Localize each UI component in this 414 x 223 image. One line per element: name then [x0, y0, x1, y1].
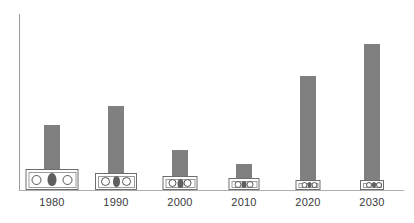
bar — [364, 44, 380, 190]
money-icon — [95, 173, 137, 190]
x-axis-label: 2000 — [148, 196, 212, 208]
money-icon — [229, 178, 260, 190]
x-axis-label: 1980 — [20, 196, 84, 208]
seal-left-icon — [235, 181, 242, 188]
bar-group — [340, 14, 404, 190]
seal-right-icon — [122, 177, 131, 186]
bar-chart: 198019902000201020202030 — [0, 0, 414, 223]
seal-right-icon — [62, 175, 72, 185]
x-axis-label: 2020 — [276, 196, 340, 208]
portrait-icon — [177, 179, 183, 188]
x-axis-label: 2030 — [340, 196, 404, 208]
seal-left-icon — [169, 179, 177, 187]
bar-group — [84, 14, 148, 190]
bar-group — [148, 14, 212, 190]
seal-right-icon — [183, 179, 191, 187]
money-icon — [296, 180, 321, 190]
money-icon — [163, 176, 198, 190]
x-axis-label: 1990 — [84, 196, 148, 208]
seal-left-icon — [32, 175, 42, 185]
x-axis-label: 2010 — [212, 196, 276, 208]
seal-left-icon — [101, 177, 110, 186]
bar-group — [212, 14, 276, 190]
plot-area — [20, 14, 404, 190]
seal-right-icon — [247, 181, 254, 188]
money-icon — [26, 169, 79, 190]
money-icon — [360, 180, 384, 190]
x-axis-line — [19, 190, 404, 191]
portrait-icon — [113, 176, 120, 187]
seal-right-icon — [312, 182, 318, 188]
bar-group — [20, 14, 84, 190]
portrait-icon — [48, 173, 57, 186]
x-axis-tick-labels: 198019902000201020202030 — [20, 196, 404, 216]
bar-group — [276, 14, 340, 190]
bar — [300, 76, 316, 190]
seal-right-icon — [376, 182, 382, 188]
